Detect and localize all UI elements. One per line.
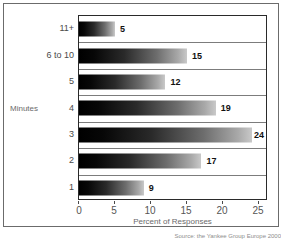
- x-axis-tick-label: 15: [180, 205, 191, 216]
- bar-value-label: 17: [206, 156, 216, 166]
- bar[interactable]: [79, 154, 201, 169]
- y-axis-tick-label: 11+: [16, 23, 74, 33]
- bar[interactable]: [79, 22, 115, 37]
- bar[interactable]: [79, 101, 216, 116]
- x-axis-tick-label: 5: [111, 205, 117, 216]
- bar[interactable]: [79, 48, 187, 63]
- x-axis-tick-label: 10: [144, 205, 155, 216]
- x-axis-tick-mark: [222, 201, 223, 204]
- bar-row: 5: [79, 16, 266, 42]
- x-axis-tick-mark: [258, 201, 259, 204]
- plot-area: 5 15 12 19 24: [78, 15, 267, 200]
- x-axis-tick-label: 20: [216, 205, 227, 216]
- bar-value-label: 19: [221, 103, 231, 113]
- x-axis-tick-mark: [114, 201, 115, 204]
- y-axis-tick-label: 2: [16, 155, 74, 165]
- bar-row: 24: [79, 122, 266, 148]
- bar[interactable]: [79, 180, 144, 195]
- x-axis-tick-label: 0: [76, 205, 82, 216]
- x-axis-title: Percent of Responses: [78, 217, 267, 226]
- bar-value-label: 9: [149, 183, 154, 193]
- bar[interactable]: [79, 75, 165, 90]
- x-axis-ticks: 0 5 10 15 20 25: [78, 201, 267, 217]
- y-axis-tick-label: 5: [16, 76, 74, 86]
- bar-row: 9: [79, 175, 266, 201]
- x-axis-tick-mark: [150, 201, 151, 204]
- y-axis-tick-label: 3: [16, 129, 74, 139]
- bar-row: 15: [79, 42, 266, 68]
- y-axis-title: Minutes: [10, 103, 62, 112]
- bar-value-label: 5: [120, 24, 125, 34]
- source-note: Source: the Yankee Group Europe 2000: [0, 233, 281, 239]
- x-axis-tick-mark: [186, 201, 187, 204]
- bar-value-label: 12: [170, 77, 180, 87]
- y-axis-tick-label: 1: [16, 182, 74, 192]
- bar-row: 12: [79, 69, 266, 95]
- y-axis-tick-label: 6 to 10: [16, 50, 74, 60]
- plot-inner: 5 15 12 19 24: [79, 16, 266, 199]
- bar-value-label: 24: [254, 130, 264, 140]
- bar-value-label: 15: [192, 51, 202, 61]
- bar-row: 19: [79, 95, 266, 121]
- bar-row: 17: [79, 148, 266, 174]
- x-axis-tick-mark: [78, 201, 79, 204]
- x-axis-tick-label: 25: [252, 205, 263, 216]
- chart-figure: 11+ 6 to 10 5 4 3 2 1 Minutes 5 15: [0, 0, 284, 243]
- bar[interactable]: [79, 127, 252, 142]
